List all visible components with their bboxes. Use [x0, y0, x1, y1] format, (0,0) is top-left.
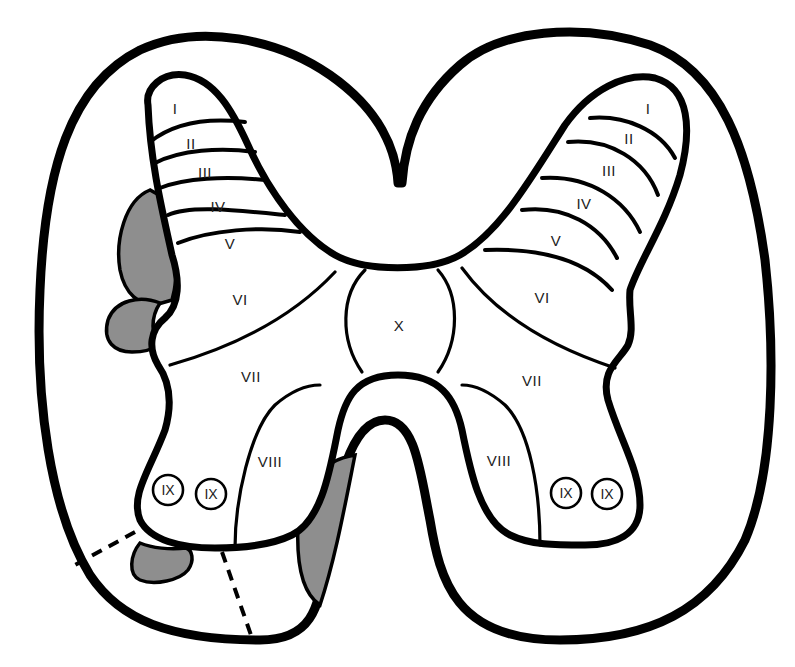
left-label-lamina-6: VI	[232, 291, 247, 308]
right-label-lamina-1: I	[646, 100, 651, 117]
left-label-lamina-1: I	[173, 100, 178, 117]
left-label-lamina-5: V	[225, 235, 236, 252]
spinal-cord-diagram: I II III IV V VI VII VIII IX IX X I II I…	[0, 0, 795, 667]
right-label-lamina-5: V	[551, 232, 562, 249]
right-label-lamina-2: II	[624, 130, 633, 147]
left-label-lamina-8: VIII	[258, 453, 283, 470]
right-label-lamina-9b: IX	[600, 486, 614, 502]
right-label-lamina-4: IV	[576, 195, 591, 212]
right-label-lamina-3: III	[602, 162, 616, 179]
left-label-lamina-7: VII	[241, 368, 261, 385]
central-label-lamina-10: X	[394, 317, 405, 334]
diagram-canvas: I II III IV V VI VII VIII IX IX X I II I…	[0, 0, 795, 667]
right-label-lamina-9a: IX	[559, 485, 573, 501]
right-label-lamina-7: VII	[522, 372, 542, 389]
left-label-lamina-2: II	[186, 135, 195, 152]
shaded-region-ventral-small	[132, 543, 192, 582]
dashed-line-left	[75, 532, 135, 565]
left-label-lamina-9a: IX	[161, 482, 175, 498]
left-label-lamina-3: III	[198, 164, 212, 181]
right-label-lamina-6: VI	[534, 289, 549, 306]
dashed-line-ventral	[222, 552, 252, 638]
right-label-lamina-8: VIII	[487, 452, 512, 469]
left-label-lamina-4: IV	[210, 198, 225, 215]
left-label-lamina-9b: IX	[204, 486, 218, 502]
